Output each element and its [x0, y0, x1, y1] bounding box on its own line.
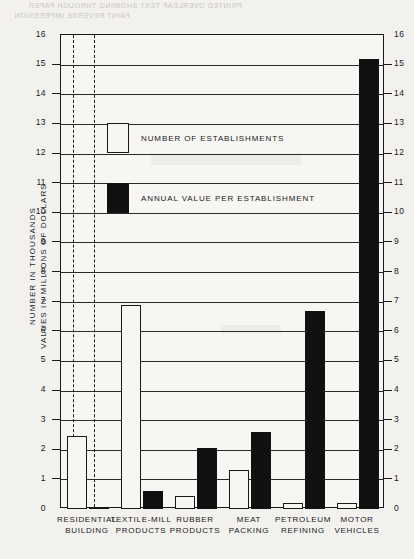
y-tick-mark [52, 478, 60, 479]
bar-establishments [337, 503, 357, 509]
gridline [61, 331, 383, 332]
y-tick-label-left: 7 [32, 296, 46, 305]
bar-value [359, 59, 379, 509]
y-tick-mark [384, 64, 392, 65]
y-tick-label-left: 6 [32, 326, 46, 335]
y-tick-label-left: 3 [32, 415, 46, 424]
y-tick-mark [384, 419, 392, 420]
gridline [61, 65, 383, 66]
gridline [61, 272, 383, 273]
y-tick-mark [52, 330, 60, 331]
gridline [61, 450, 383, 451]
x-category-label-line: VEHICLES [323, 526, 391, 537]
y-tick-mark [384, 271, 392, 272]
y-tick-mark [384, 93, 392, 94]
y-tick-mark [384, 449, 392, 450]
y-tick-mark [384, 330, 392, 331]
y-tick-mark [52, 449, 60, 450]
gridline [61, 242, 383, 243]
y-tick-label-left: 12 [32, 148, 46, 157]
legend-label: ANNUAL VALUE PER ESTABLISHMENT [141, 195, 315, 203]
bar-value [251, 432, 271, 509]
y-tick-label-right: 6 [394, 326, 408, 335]
y-tick-label-right: 5 [394, 355, 408, 364]
bar-value [143, 491, 163, 509]
y-tick-label-right: 7 [394, 296, 408, 305]
gridline [61, 154, 383, 155]
plot-area: NUMBER OF ESTABLISHMENTSANNUAL VALUE PER… [60, 34, 384, 508]
y-tick-label-right: 10 [394, 207, 408, 216]
bar-establishments [175, 496, 195, 509]
y-tick-mark [52, 390, 60, 391]
y-tick-label-left: 1 [32, 474, 46, 483]
gridline [61, 391, 383, 392]
y-tick-label-right: 11 [394, 178, 408, 187]
y-tick-mark [52, 182, 60, 183]
gridline [61, 479, 383, 480]
y-tick-label-right: 9 [394, 237, 408, 246]
y-tick-label-right: 16 [394, 30, 408, 39]
y-tick-label-right: 1 [394, 474, 408, 483]
y-tick-label-left: 0 [32, 504, 46, 513]
bar-establishments [121, 305, 141, 509]
y-tick-label-left: 11 [32, 178, 46, 187]
y-tick-label-left: 9 [32, 237, 46, 246]
y-tick-label-left: 5 [32, 355, 46, 364]
bar-establishments [283, 503, 303, 509]
grouped-bar-chart: NUMBER IN THOUSANDS VALUES IN MILLIONS O… [0, 0, 414, 559]
y-tick-mark [384, 123, 392, 124]
y-tick-mark [52, 123, 60, 124]
y-tick-mark [52, 64, 60, 65]
y-tick-label-left: 8 [32, 267, 46, 276]
y-tick-label-right: 15 [394, 59, 408, 68]
gridline [61, 420, 383, 421]
y-tick-label-left: 16 [32, 30, 46, 39]
y-tick-label-left: 15 [32, 59, 46, 68]
paper-smudge [151, 155, 301, 165]
bar-value [197, 448, 217, 509]
y-tick-mark [52, 153, 60, 154]
y-tick-mark [384, 390, 392, 391]
y-tick-mark [52, 360, 60, 361]
y-tick-label-right: 3 [394, 415, 408, 424]
y-tick-label-right: 4 [394, 385, 408, 394]
bar-value [89, 508, 109, 509]
gridline [61, 302, 383, 303]
y-tick-mark [384, 478, 392, 479]
y-tick-mark [384, 301, 392, 302]
bar-establishments [229, 470, 249, 509]
y-tick-mark [52, 419, 60, 420]
gridline [61, 94, 383, 95]
y-tick-label-right: 2 [394, 444, 408, 453]
y-tick-mark [384, 212, 392, 213]
bar-value [305, 311, 325, 509]
y-tick-label-right: 0 [394, 504, 408, 513]
y-tick-mark [52, 93, 60, 94]
x-category-label-line: MOTOR [323, 515, 391, 526]
y-tick-mark [384, 241, 392, 242]
y-tick-mark [384, 360, 392, 361]
legend-swatch-value [107, 183, 129, 213]
gridline [61, 361, 383, 362]
legend-label: NUMBER OF ESTABLISHMENTS [141, 135, 284, 143]
y-tick-label-left: 2 [32, 444, 46, 453]
y-tick-mark [52, 241, 60, 242]
x-category-label: MOTORVEHICLES [323, 515, 391, 536]
dashed-divider-2 [94, 35, 95, 507]
y-tick-label-right: 12 [394, 148, 408, 157]
y-tick-label-left: 10 [32, 207, 46, 216]
y-tick-label-left: 14 [32, 89, 46, 98]
y-tick-mark [384, 153, 392, 154]
y-tick-mark [384, 182, 392, 183]
y-tick-label-left: 4 [32, 385, 46, 394]
bar-establishments [67, 436, 87, 509]
y-tick-label-right: 14 [394, 89, 408, 98]
y-tick-label-right: 8 [394, 267, 408, 276]
y-tick-label-left: 13 [32, 118, 46, 127]
y-tick-label-right: 13 [394, 118, 408, 127]
legend-swatch-establishments [107, 123, 129, 153]
y-tick-mark [52, 271, 60, 272]
y-tick-mark [52, 301, 60, 302]
y-tick-mark [52, 212, 60, 213]
